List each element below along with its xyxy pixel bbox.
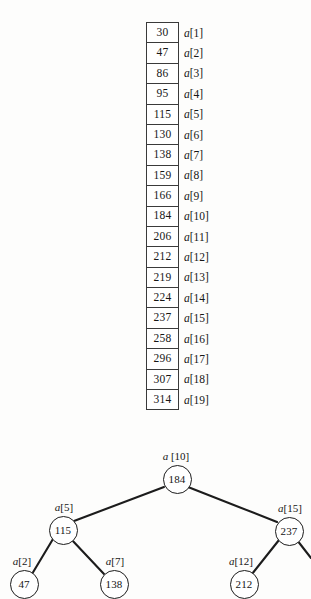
array-cell-label: a[14]: [179, 287, 209, 308]
array-cell-label: a[19]: [179, 389, 209, 410]
array-cell-value: 224: [146, 287, 179, 308]
tree-edge: [297, 540, 311, 558]
array-row: 184a[10]: [146, 206, 256, 227]
array-cell-label: a[7]: [179, 144, 203, 165]
tree-node-label: a[15]: [278, 502, 302, 514]
array-row: 206a[11]: [146, 226, 256, 247]
array-cell-label: a[13]: [179, 267, 209, 288]
array-cell-value: 258: [146, 328, 179, 349]
array-cell-label: a[8]: [179, 165, 203, 186]
array-cell-value: 184: [146, 206, 179, 227]
array-figure: 30a[1]47a[2]86a[3]95a[4]115a[5]130a[6]13…: [146, 22, 256, 410]
tree-node-label: a[2]: [13, 555, 31, 567]
array-cell-label: a[9]: [179, 185, 203, 206]
array-cell-value: 138: [146, 144, 179, 165]
array-row: 212a[12]: [146, 246, 256, 267]
array-cell-value: 130: [146, 124, 179, 145]
array-cell-label: a[17]: [179, 348, 209, 369]
tree-node: 237: [275, 517, 304, 546]
array-row: 115a[5]: [146, 104, 256, 125]
tree-node-label: a[7]: [106, 555, 124, 567]
array-cell-value: 47: [146, 42, 179, 63]
array-cell-value: 95: [146, 83, 179, 104]
tree-edges: [0, 440, 311, 584]
array-cell-value: 166: [146, 185, 179, 206]
array-cell-value: 307: [146, 369, 179, 390]
array-row: 219a[13]: [146, 267, 256, 288]
array-cell-label: a[12]: [179, 246, 209, 267]
tree-node: 115: [49, 516, 78, 545]
array-cell-value: 212: [146, 246, 179, 267]
array-cell-label: a[16]: [179, 328, 209, 349]
array-row: 237a[15]: [146, 307, 256, 328]
array-row: 47a[2]: [146, 42, 256, 63]
array-cell-label: a[1]: [179, 22, 203, 43]
array-cell-label: a[3]: [179, 63, 203, 84]
array-cell-label: a[4]: [179, 83, 203, 104]
array-row: 224a[14]: [146, 287, 256, 308]
array-row: 258a[16]: [146, 328, 256, 349]
tree-edge: [188, 487, 277, 522]
array-row: 296a[17]: [146, 348, 256, 369]
binary-search-tree-figure: a [10]184a[5]115a[15]237a[2]47a[7]138a[1…: [0, 440, 311, 584]
array-cell-value: 219: [146, 267, 179, 288]
array-cell-label: a[10]: [179, 206, 209, 227]
tree-node-label: a[5]: [55, 501, 73, 513]
array-cell-value: 115: [146, 104, 179, 125]
array-row: 130a[6]: [146, 124, 256, 145]
array-cell-value: 159: [146, 165, 179, 186]
array-row: 95a[4]: [146, 83, 256, 104]
tree-edge: [32, 539, 53, 574]
array-cell-label: a[18]: [179, 369, 209, 390]
tree-node-label: a[12]: [229, 555, 253, 567]
tree-node: 138: [100, 570, 129, 599]
array-row: 166a[9]: [146, 185, 256, 206]
array-cell-value: 30: [146, 22, 179, 43]
tree-node: 47: [10, 570, 39, 599]
array-row: 30a[1]: [146, 22, 256, 43]
array-row: 159a[8]: [146, 165, 256, 186]
array-row: 138a[7]: [146, 144, 256, 165]
array-cell-value: 86: [146, 63, 179, 84]
tree-edge: [74, 487, 164, 521]
tree-node-label: a [10]: [163, 450, 190, 462]
array-row: 307a[18]: [146, 369, 256, 390]
tree-node: 212: [230, 570, 259, 599]
array-row: 86a[3]: [146, 63, 256, 84]
tree-edge: [71, 539, 104, 574]
array-cell-value: 296: [146, 348, 179, 369]
array-cell-label: a[11]: [179, 226, 208, 247]
array-cell-label: a[2]: [179, 42, 203, 63]
array-cell-label: a[15]: [179, 307, 209, 328]
array-cell-value: 206: [146, 226, 179, 247]
array-cell-label: a[6]: [179, 124, 203, 145]
tree-node: 184: [163, 465, 192, 494]
array-cell-value: 237: [146, 307, 179, 328]
tree-edge: [252, 540, 279, 574]
array-row: 314a[19]: [146, 389, 256, 410]
array-cell-label: a[5]: [179, 104, 203, 125]
array-cell-value: 314: [146, 389, 179, 410]
